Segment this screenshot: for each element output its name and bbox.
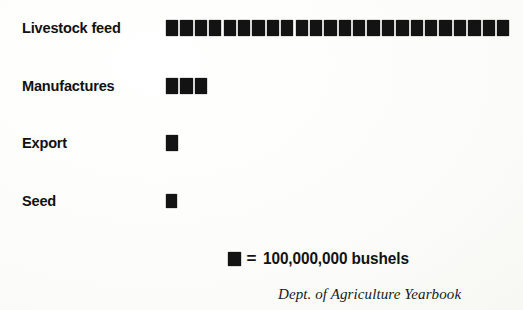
row-symbols-livestock-feed xyxy=(166,16,509,40)
unit-square-icon xyxy=(425,20,437,36)
unit-square-icon xyxy=(439,20,451,36)
unit-square-icon xyxy=(497,20,509,36)
chart-row-manufactures: Manufactures xyxy=(0,74,523,98)
chart-row-livestock-feed: Livestock feed xyxy=(0,16,523,40)
row-label-manufactures: Manufactures xyxy=(22,77,150,95)
unit-square-icon xyxy=(411,20,423,36)
unit-square-icon xyxy=(195,78,207,94)
unit-square-icon xyxy=(166,20,178,36)
unit-square-icon xyxy=(166,194,177,208)
unit-square-icon xyxy=(166,135,178,151)
unit-square-icon xyxy=(367,20,379,36)
unit-square-icon xyxy=(209,20,221,36)
unit-square-icon xyxy=(454,20,466,36)
row-symbols-manufactures xyxy=(166,74,207,98)
row-label-livestock-feed: Livestock feed xyxy=(22,19,150,37)
unit-square-icon xyxy=(238,20,250,36)
unit-square-icon xyxy=(180,20,192,36)
unit-square-icon xyxy=(180,78,192,94)
chart-legend: = 100,000,000 bushels xyxy=(228,250,415,268)
source-credit: Dept. of Agriculture Yearbook xyxy=(278,286,461,303)
unit-square-icon xyxy=(195,20,207,36)
unit-square-icon xyxy=(296,20,308,36)
pictogram-chart: Livestock feed Manufactures Export Seed … xyxy=(0,0,523,310)
unit-square-icon xyxy=(339,20,351,36)
unit-square-icon xyxy=(252,20,264,36)
unit-square-icon xyxy=(281,20,293,36)
chart-row-export: Export xyxy=(0,131,523,155)
chart-row-seed: Seed xyxy=(0,189,523,213)
unit-square-icon xyxy=(324,20,336,36)
unit-square-icon xyxy=(224,20,236,36)
row-label-seed: Seed xyxy=(22,192,150,210)
row-symbols-export xyxy=(166,131,178,155)
unit-square-icon xyxy=(267,20,279,36)
row-symbols-seed xyxy=(166,189,177,213)
unit-square-icon xyxy=(382,20,394,36)
unit-square-icon xyxy=(483,20,495,36)
unit-square-icon xyxy=(468,20,480,36)
unit-square-icon xyxy=(353,20,365,36)
legend-equals-sign: = xyxy=(247,250,257,267)
row-label-export: Export xyxy=(22,134,150,152)
legend-unit-text: 100,000,000 bushels xyxy=(263,250,409,268)
unit-square-icon xyxy=(396,20,408,36)
unit-square-icon xyxy=(166,78,178,94)
legend-square-icon xyxy=(228,252,241,267)
unit-square-icon xyxy=(310,20,322,36)
